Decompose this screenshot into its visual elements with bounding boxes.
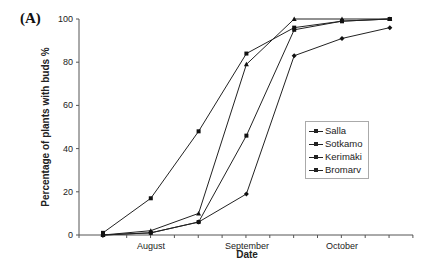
x-axis-title: Date <box>236 249 258 260</box>
y-tick-label: 100 <box>58 14 73 24</box>
data-point-marker <box>244 191 249 196</box>
data-point-marker <box>244 134 248 138</box>
data-point-marker <box>340 36 345 41</box>
data-point-marker <box>388 17 392 21</box>
y-axis-title: Percentage of plants with buds % <box>40 47 51 207</box>
data-point-marker <box>292 28 296 32</box>
y-tick-label: 0 <box>68 230 73 240</box>
y-tick-label: 20 <box>63 187 73 197</box>
data-point-marker <box>196 211 201 216</box>
x-tick-label: August <box>137 241 166 251</box>
data-point-marker <box>244 52 248 56</box>
data-point-marker <box>292 53 297 58</box>
x-tick-label: October <box>326 241 358 251</box>
legend-marker-icon <box>309 140 323 148</box>
data-point-marker <box>149 196 153 200</box>
legend-marker-icon <box>309 166 323 174</box>
legend-marker-icon <box>309 127 323 135</box>
legend-item-sotkamo: Sotkamo <box>309 137 365 150</box>
y-tick-label: 80 <box>63 57 73 67</box>
data-point-marker <box>387 25 392 30</box>
data-point-marker <box>197 129 201 133</box>
y-tick-label: 60 <box>63 100 73 110</box>
legend-item-salla: Salla <box>309 124 365 137</box>
legend-item-kerimaki: Kerimäki <box>309 150 365 163</box>
data-point-marker <box>340 19 344 23</box>
legend-item-bromarv: Bromarv <box>309 163 365 176</box>
legend-marker-icon <box>309 153 323 161</box>
chart-legend: Salla Sotkamo Kerimäki Bromarv <box>305 121 369 179</box>
y-tick-label: 40 <box>63 144 73 154</box>
